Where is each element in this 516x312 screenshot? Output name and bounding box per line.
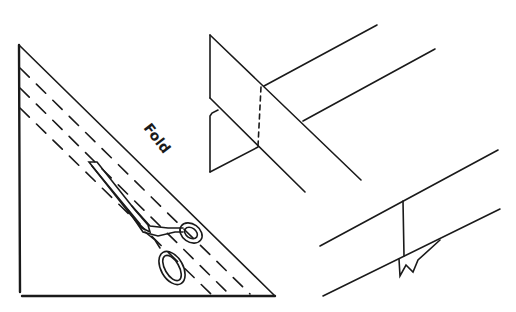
diagram-canvas: Fold: [0, 0, 516, 312]
cut-line-1: [20, 68, 250, 294]
seam-line: [258, 87, 261, 146]
joined-lower-edge: [323, 209, 500, 296]
triangle-left-edge: [19, 45, 20, 292]
strip-joining: [210, 25, 435, 192]
folded-triangle: Fold: [19, 45, 275, 296]
strip-a-upper-edge: [210, 35, 361, 180]
joined-strip: [320, 150, 500, 296]
seam-allowance-notch: [399, 240, 440, 276]
joined-seam: [403, 201, 404, 256]
cut-line-2: [20, 88, 229, 294]
strip-b-end-edge: [210, 147, 258, 172]
diagram-svg: Fold: [0, 0, 516, 312]
strip-b-upper-edge: [264, 25, 377, 86]
strip-b-lower-edge: [303, 49, 435, 121]
fold-label: Fold: [141, 120, 174, 156]
panel-edge-lower: [210, 110, 218, 172]
joined-upper-edge: [320, 150, 498, 246]
scissors-icon: [89, 162, 206, 289]
triangle-fold-edge: [19, 45, 275, 296]
